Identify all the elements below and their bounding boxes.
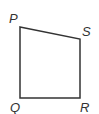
quadrilateral-pqrs [20,27,80,98]
vertex-label-r: R [80,100,89,114]
quadrilateral-diagram: P S Q R [0,0,99,114]
vertex-label-q: Q [10,100,20,114]
vertex-label-s: S [82,24,91,39]
vertex-label-p: P [9,11,18,26]
